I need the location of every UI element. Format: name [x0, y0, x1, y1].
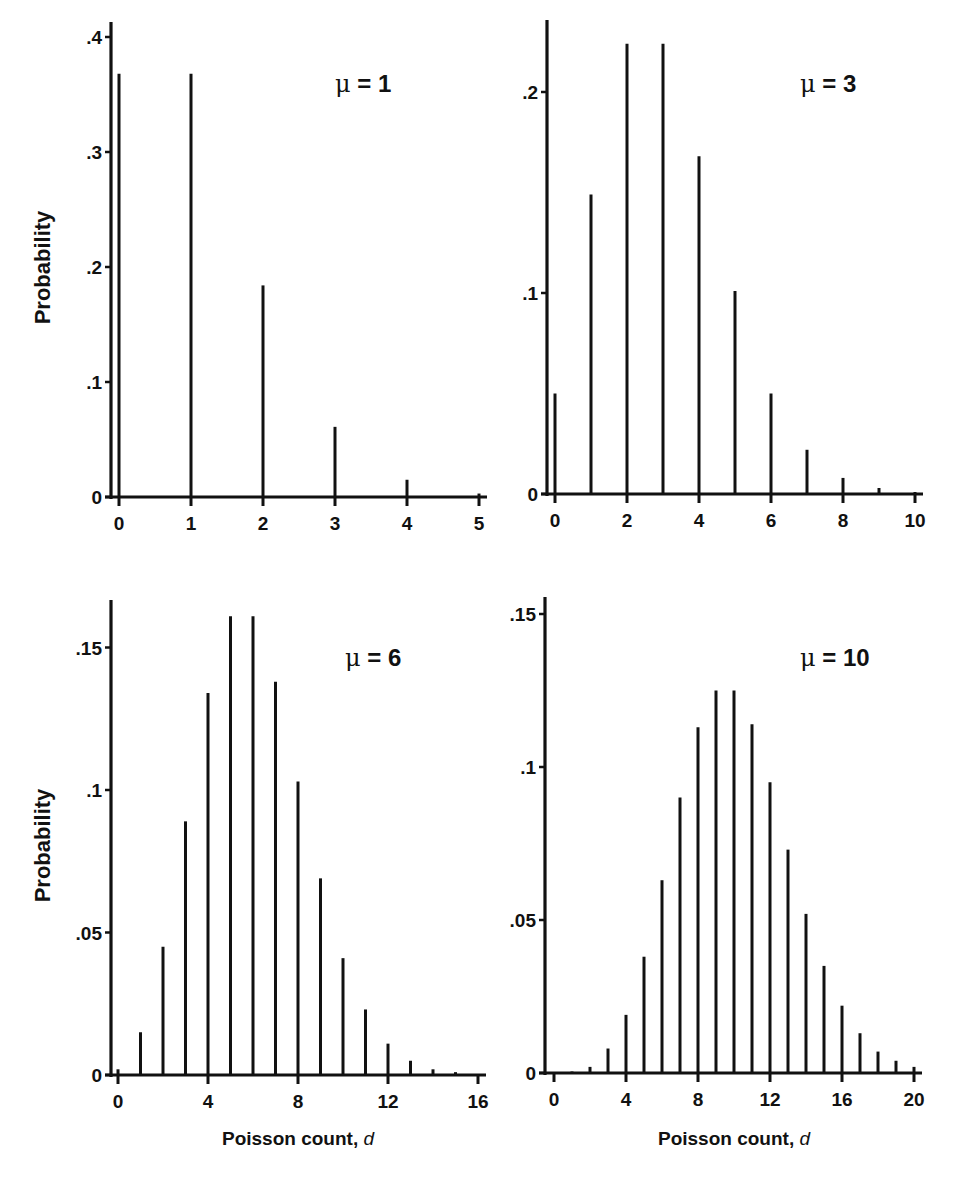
poisson-distribution-figure: 0.1.2.3.4012345μ = 1Probability 0.1.2024… — [0, 0, 960, 1190]
y-tick-label: .15 — [510, 604, 537, 625]
x-tick-label: 4 — [203, 1091, 214, 1112]
x-ticks: 012345 — [114, 497, 485, 534]
x-ticks: 0481216 — [113, 1075, 489, 1112]
x-tick-label: 8 — [838, 510, 849, 531]
panel-mu-1: 0.1.2.3.4012345μ = 1Probability — [30, 22, 487, 534]
panel-mu-6: 0.05.1.150481216μ = 6ProbabilityPoisson … — [30, 600, 489, 1149]
x-tick-label: 1 — [186, 513, 197, 534]
y-tick-label: .15 — [76, 638, 103, 659]
x-ticks: 0246810 — [550, 494, 926, 531]
x-tick-label: 2 — [258, 513, 269, 534]
y-tick-label: .1 — [522, 283, 538, 304]
bars — [118, 616, 456, 1075]
bars — [119, 74, 479, 497]
y-axis-title: Probability — [30, 788, 55, 902]
x-tick-label: 12 — [759, 1089, 780, 1110]
y-tick-label: 0 — [91, 487, 102, 508]
x-tick-label: 5 — [474, 513, 485, 534]
y-tick-label: .05 — [510, 910, 537, 931]
mu-label: μ = 10 — [800, 644, 870, 672]
panel-mu-3: 0.1.20246810μ = 3 — [522, 20, 925, 531]
y-ticks: 0.1.2 — [522, 82, 547, 505]
x-axis-title: Poisson count, d — [222, 1128, 375, 1149]
y-tick-label: .1 — [86, 780, 102, 801]
x-tick-label: 8 — [693, 1089, 704, 1110]
x-tick-label: 4 — [694, 510, 705, 531]
y-ticks: 0.05.1.15 — [510, 604, 545, 1084]
x-tick-label: 0 — [550, 510, 561, 531]
x-tick-label: 0 — [549, 1089, 560, 1110]
x-tick-label: 2 — [622, 510, 633, 531]
x-tick-label: 4 — [621, 1089, 632, 1110]
x-tick-label: 16 — [831, 1089, 852, 1110]
y-ticks: 0.05.1.15 — [76, 638, 111, 1087]
y-tick-label: .4 — [86, 27, 102, 48]
y-tick-label: .1 — [520, 757, 536, 778]
y-tick-label: .2 — [86, 257, 102, 278]
mu-label: μ = 6 — [345, 644, 401, 672]
mu-label: μ = 3 — [800, 70, 856, 98]
x-tick-label: 12 — [377, 1091, 398, 1112]
x-tick-label: 0 — [114, 513, 125, 534]
y-tick-label: 0 — [527, 484, 538, 505]
bars — [555, 44, 915, 494]
x-axis-title: Poisson count, d — [658, 1128, 811, 1149]
bars — [572, 691, 914, 1074]
x-tick-label: 6 — [766, 510, 777, 531]
panel-mu-10: 0.05.1.15048121620μ = 10Poisson count, d — [510, 597, 925, 1149]
y-tick-label: .2 — [522, 82, 538, 103]
x-ticks: 048121620 — [549, 1073, 925, 1110]
y-tick-label: 0 — [525, 1063, 536, 1084]
y-tick-label: 0 — [91, 1065, 102, 1086]
x-tick-label: 4 — [402, 513, 413, 534]
y-ticks: 0.1.2.3.4 — [86, 27, 111, 508]
x-tick-label: 3 — [330, 513, 341, 534]
y-tick-label: .3 — [86, 142, 102, 163]
y-tick-label: .05 — [76, 923, 103, 944]
x-tick-label: 16 — [467, 1091, 488, 1112]
y-axis-title: Probability — [30, 210, 55, 324]
x-tick-label: 10 — [904, 510, 925, 531]
x-tick-label: 8 — [293, 1091, 304, 1112]
x-tick-label: 0 — [113, 1091, 124, 1112]
mu-label: μ = 1 — [335, 70, 391, 98]
x-tick-label: 20 — [903, 1089, 924, 1110]
y-tick-label: .1 — [86, 372, 102, 393]
